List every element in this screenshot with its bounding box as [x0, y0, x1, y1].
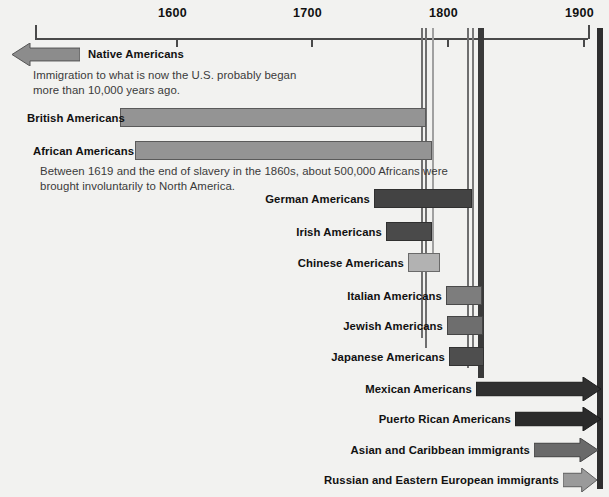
axis-tick-1800	[447, 38, 449, 47]
bar-label-jewish-americans: Jewish Americans	[0, 320, 443, 332]
bar-label-irish-americans: Irish Americans	[0, 226, 382, 238]
bar-label-asian-and-caribbean-immigrants: Asian and Caribbean immigrants	[0, 444, 530, 456]
arrow-bar-puerto-rican-americans	[515, 407, 601, 431]
axis-tick-1700	[311, 38, 313, 47]
arrow-bar-mexican-americans	[476, 377, 601, 401]
bar-label-african-americans: African Americans	[33, 145, 134, 157]
bar-label-british-americans: British Americans	[27, 112, 125, 124]
bar-label-puerto-rican-americans: Puerto Rican Americans	[0, 413, 511, 425]
axis-tick-1600	[176, 38, 178, 47]
immigration-timeline-chart: 16001700180019002000Native AmericansImmi…	[0, 0, 609, 497]
axis-tick-1900	[583, 38, 585, 47]
bar-italian-americans	[446, 286, 482, 305]
axis-tick-label-1900: 1900	[565, 6, 594, 20]
bar-japanese-americans	[449, 347, 484, 366]
axis-tick-label-1600: 1600	[158, 6, 187, 20]
arrow-bar-asian-and-caribbean-immigrants	[534, 438, 598, 462]
bar-label-japanese-americans: Japanese Americans	[0, 351, 445, 363]
bar-british-americans	[120, 108, 426, 127]
arrow-bar-russian-and-eastern-european-immigrants	[563, 468, 597, 492]
bar-label-chinese-americans: Chinese Americans	[0, 257, 404, 269]
bar-label-native-americans: Native Americans	[88, 48, 184, 60]
arrow-bar-native-americans	[12, 43, 80, 66]
note-native-americans: Immigration to what is now the U.S. prob…	[33, 68, 296, 97]
bar-german-americans	[374, 189, 472, 208]
bar-african-americans	[135, 141, 432, 160]
bar-jewish-americans	[447, 316, 483, 335]
bar-chinese-americans	[408, 253, 440, 272]
bar-irish-americans	[386, 222, 432, 241]
axis-right-cap	[588, 25, 590, 39]
axis-tick-label-1700: 1700	[293, 6, 322, 20]
bar-label-german-americans: German Americans	[0, 193, 370, 205]
bar-label-russian-and-eastern-european-immigrants: Russian and Eastern European immigrants	[0, 474, 559, 486]
axis-tick-label-1800: 1800	[429, 6, 458, 20]
bar-label-mexican-americans: Mexican Americans	[0, 383, 472, 395]
vertical-marker-4	[472, 28, 474, 358]
axis-left-cap	[35, 25, 37, 39]
vertical-marker-2	[432, 28, 434, 253]
bar-label-italian-americans: Italian Americans	[0, 290, 442, 302]
